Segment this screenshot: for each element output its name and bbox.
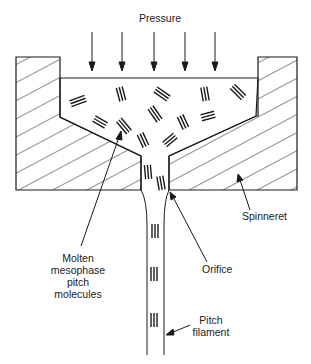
svg-text:mesophase: mesophase — [51, 264, 105, 276]
pressure-arrows-icon — [89, 32, 218, 71]
svg-text:molecules: molecules — [54, 288, 101, 300]
svg-text:Pitch: Pitch — [199, 314, 223, 326]
spinneret-diagram: Pressure — [0, 0, 311, 364]
pressure-label: Pressure — [139, 12, 181, 24]
svg-text:filament: filament — [193, 326, 230, 338]
spinneret-label: Spinneret — [242, 210, 287, 222]
svg-text:Molten: Molten — [62, 252, 94, 264]
svg-text:pitch: pitch — [67, 276, 89, 288]
pitch-filament — [141, 190, 169, 355]
filament-label: Pitch filament — [193, 314, 230, 338]
molecules-label: Molten mesophase pitch molecules — [51, 252, 105, 300]
orifice-label: Orifice — [202, 263, 232, 275]
